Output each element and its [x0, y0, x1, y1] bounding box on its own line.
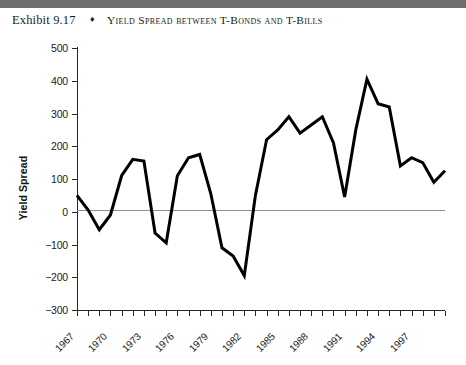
- page-top-rule: [0, 0, 466, 8]
- diamond-bullet-icon: ♦: [90, 14, 95, 24]
- series-line-yield-spread: [0, 34, 466, 365]
- yield-spread-polyline: [77, 79, 445, 275]
- exhibit-header: Exhibit 9.17 ♦ Yield Spread between T-Bo…: [12, 13, 323, 28]
- exhibit-number: Exhibit 9.17: [12, 13, 76, 27]
- exhibit-title: Yield Spread between T-Bonds and T-Bills: [107, 14, 323, 26]
- chart-plot-area: Yield Spread 5004003002001000−100−200−30…: [0, 34, 466, 365]
